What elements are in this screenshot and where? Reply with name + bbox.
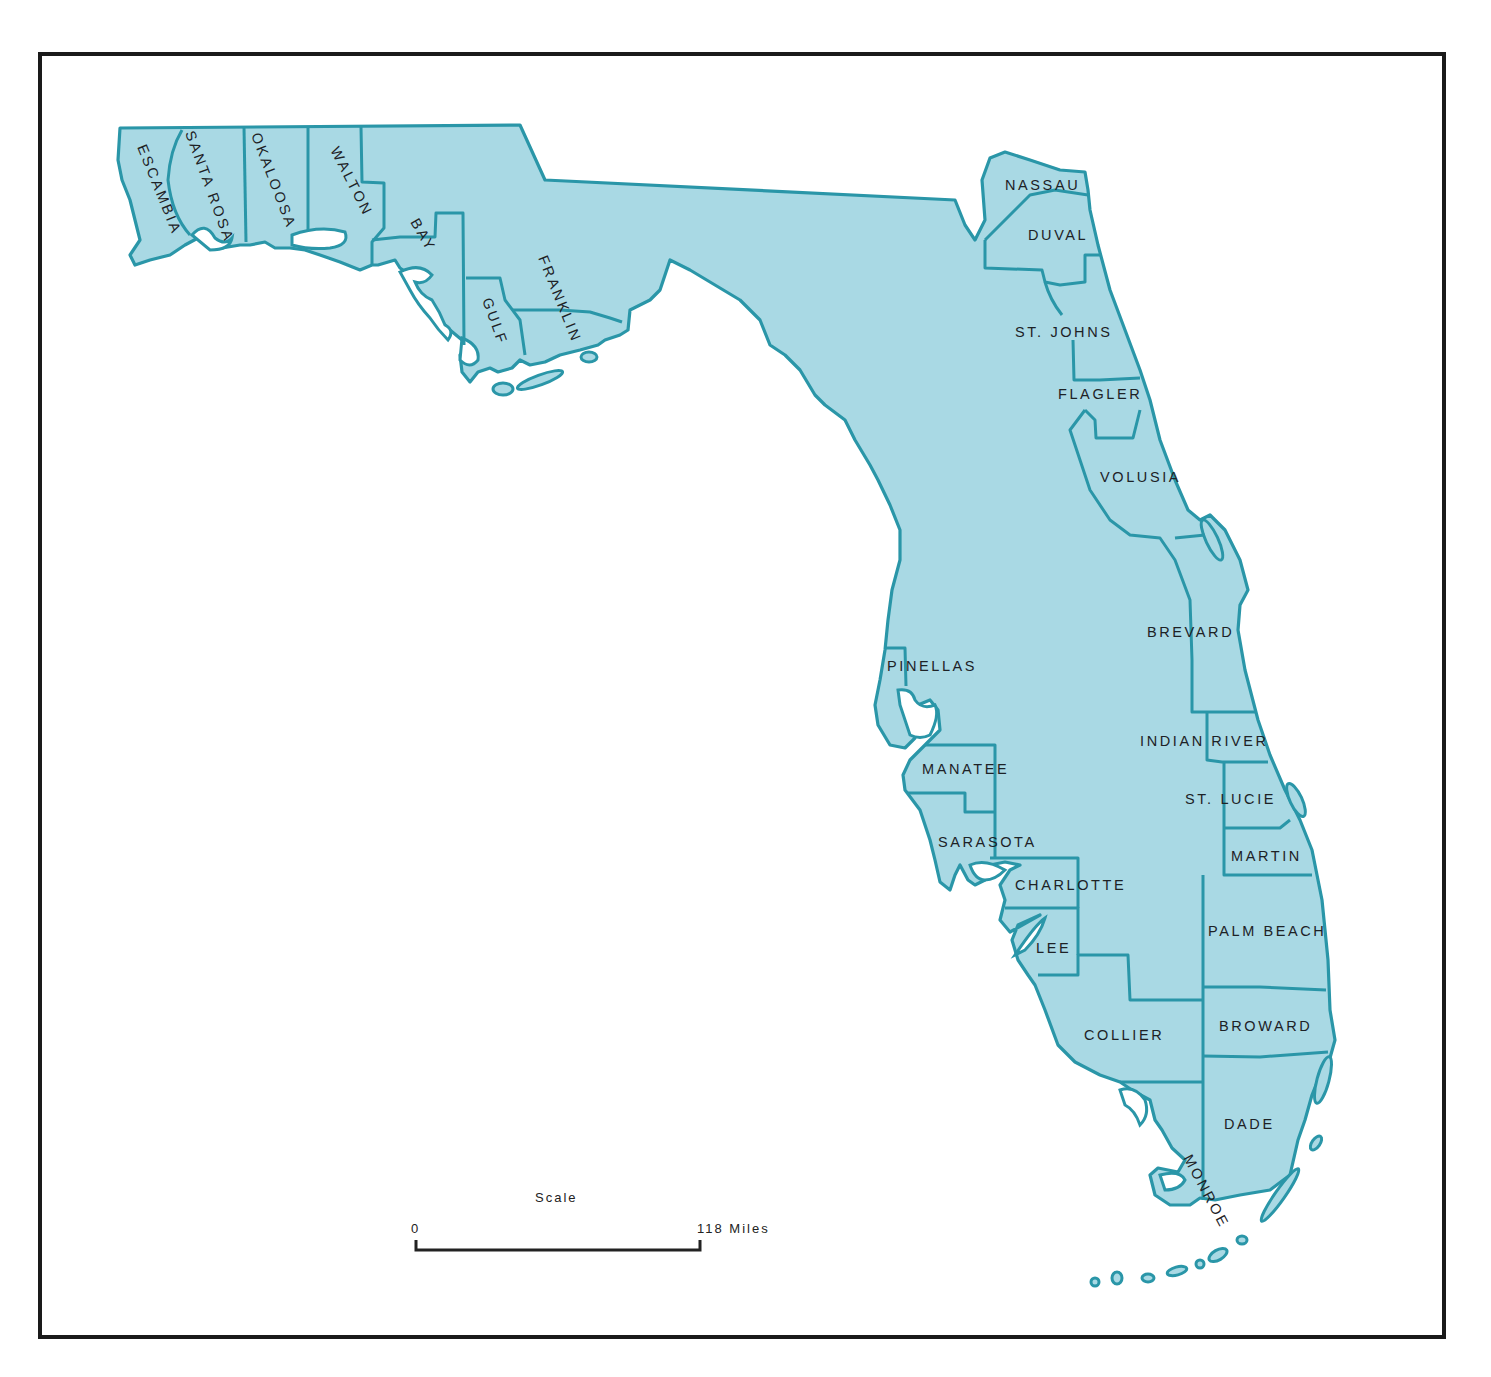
county-label-broward: BROWARD xyxy=(1219,1018,1312,1034)
county-label-palm-beach: PALM BEACH xyxy=(1208,923,1326,939)
county-label-volusia: VOLUSIA xyxy=(1100,469,1181,485)
county-label-duval: DUVAL xyxy=(1028,227,1088,243)
florida-key xyxy=(1196,1260,1204,1268)
county-label-nassau: NASSAU xyxy=(1005,177,1080,193)
florida-county-map: ESCAMBIA SANTA ROSA OKALOOSA WALTON BAY … xyxy=(0,0,1491,1377)
county-label-st-johns: ST. JOHNS xyxy=(1015,324,1113,340)
county-label-lee: LEE xyxy=(1036,940,1071,956)
florida-key xyxy=(1091,1278,1099,1286)
florida-landmass xyxy=(118,125,1335,1205)
county-label-sarasota: SARASOTA xyxy=(938,834,1037,850)
florida-key xyxy=(1166,1265,1187,1278)
county-label-indian-river: INDIAN RIVER xyxy=(1140,733,1269,749)
scale-end-label: 118 Miles xyxy=(697,1221,770,1236)
barrier-island xyxy=(581,352,597,362)
county-label-pinellas: PINELLAS xyxy=(887,658,977,674)
florida-key xyxy=(1308,1134,1324,1152)
county-label-martin: MARTIN xyxy=(1231,848,1302,864)
florida-key xyxy=(1112,1272,1122,1284)
county-label-dade: DADE xyxy=(1224,1116,1275,1132)
florida-key xyxy=(1142,1274,1154,1282)
county-label-flagler: FLAGLER xyxy=(1058,386,1142,402)
florida-key xyxy=(1207,1246,1229,1265)
county-label-charlotte: CHARLOTTE xyxy=(1015,877,1126,893)
scale-legend: Scale 0 118 Miles xyxy=(411,1190,770,1250)
barrier-island xyxy=(516,367,565,393)
county-label-brevard: BREVARD xyxy=(1147,624,1234,640)
scale-bar xyxy=(416,1240,700,1250)
county-label-collier: COLLIER xyxy=(1084,1027,1164,1043)
barrier-island xyxy=(493,383,513,395)
florida-key xyxy=(1237,1236,1247,1244)
scale-start-label: 0 xyxy=(411,1221,420,1236)
county-label-manatee: MANATEE xyxy=(922,761,1009,777)
county-label-st-lucie: ST. LUCIE xyxy=(1185,791,1276,807)
scale-title: Scale xyxy=(535,1190,578,1205)
